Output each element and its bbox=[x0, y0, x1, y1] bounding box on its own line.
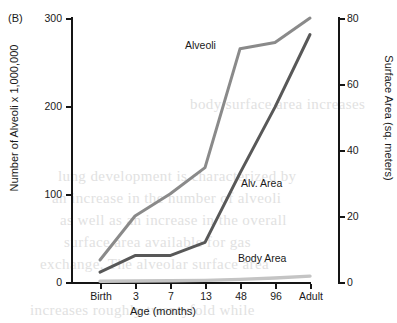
series-label-alveoli: Alveoli bbox=[185, 39, 216, 51]
series-line-alv-area bbox=[100, 35, 310, 273]
series-line-alveoli bbox=[100, 18, 310, 260]
series-label-body-area: Body Area bbox=[238, 252, 286, 264]
series-line-body-area bbox=[100, 276, 310, 281]
figure-panel-b: lung development is characterized by an … bbox=[0, 0, 397, 323]
series-label-alv-area: Alv. Area bbox=[241, 177, 282, 189]
